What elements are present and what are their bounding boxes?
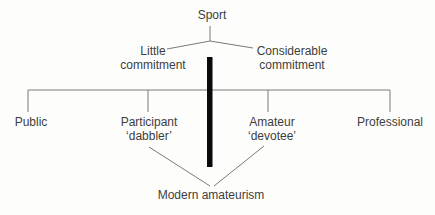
considerable-commitment-line2: commitment — [257, 59, 328, 73]
node-public: Public — [15, 116, 48, 130]
amateurism-diagram: Sport Little commitment Considerable com… — [0, 0, 435, 215]
node-little-commitment: Little commitment — [120, 45, 185, 72]
node-sport: Sport — [198, 9, 227, 23]
little-commitment-line2: commitment — [120, 59, 185, 73]
node-considerable-commitment: Considerable commitment — [257, 45, 328, 72]
diagram-lines — [0, 0, 435, 215]
node-participant-dabbler: Participant ‘dabbler’ — [121, 116, 178, 143]
node-modern-amateurism: Modern amateurism — [158, 189, 265, 203]
amateur-sublabel: ‘devotee’ — [248, 130, 296, 144]
edge-participant-merge — [149, 147, 210, 186]
considerable-commitment-line1: Considerable — [257, 45, 328, 59]
node-amateur-devotee: Amateur ‘devotee’ — [248, 116, 296, 143]
participant-label: Participant — [121, 116, 178, 130]
edge-amateur-merge — [214, 146, 264, 186]
little-commitment-line1: Little — [120, 45, 185, 59]
central-divider-bar — [207, 57, 213, 167]
participant-sublabel: ‘dabbler’ — [121, 130, 178, 144]
amateur-label: Amateur — [248, 116, 296, 130]
edge-root-considerable — [210, 41, 253, 48]
node-professional: Professional — [357, 116, 423, 130]
